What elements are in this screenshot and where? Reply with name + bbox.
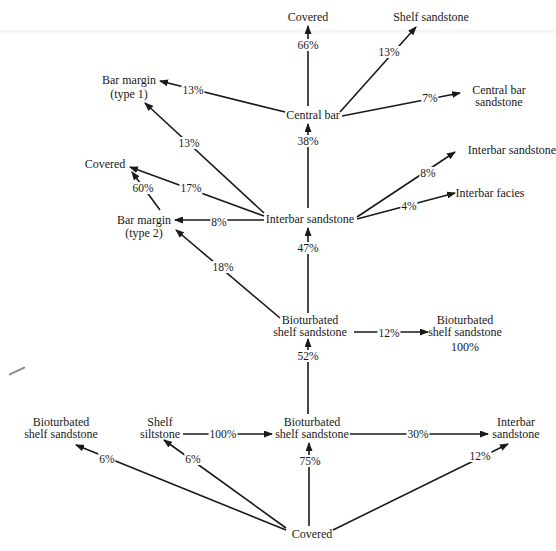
node-bar-margin-2-line2: (type 2) xyxy=(125,227,163,240)
edge-central-bar-central-bar-sandstone xyxy=(342,93,460,116)
label-central-bar-covered: 66% xyxy=(296,39,319,51)
label-interbar-interbar-sandstone: 8% xyxy=(419,167,436,179)
label-bioturbated-bottom-interbar-bottom: 30% xyxy=(406,428,429,440)
edge-bioturbated-mid-bar-margin-2 xyxy=(176,230,280,318)
label-covered-bioturbated-left: 6% xyxy=(98,453,115,465)
label-interbar-interbar-facies: 4% xyxy=(400,200,417,212)
node-interbar-sandstone-right: Interbar sandstone xyxy=(468,144,556,157)
node-interbar-sandstone-center: Interbar sandstone xyxy=(266,213,354,226)
node-bioturbated-left-line2: shelf sandstone xyxy=(24,428,98,441)
node-shelf-sandstone: Shelf sandstone xyxy=(393,11,469,24)
node-central-bar-sandstone-line2: sandstone xyxy=(475,96,522,109)
label-covered-bioturbated-bottom: 75% xyxy=(298,455,321,467)
label-bar-margin-2-covered-left: 60% xyxy=(131,182,154,194)
label-central-bar-central-bar-sandstone: 7% xyxy=(421,92,438,104)
edge-covered-shelf-siltstone xyxy=(164,440,286,528)
label-interbar-central-bar: 38% xyxy=(296,135,319,147)
label-bioturbated-mid-bar-margin-2: 18% xyxy=(211,261,234,273)
label-shelf-siltstone-bioturbated-bottom: 100% xyxy=(209,428,238,440)
node-bar-margin-1-line2: (type 1) xyxy=(110,88,148,101)
node-covered-left: Covered xyxy=(85,158,126,171)
edge-interbar-bar-margin-1 xyxy=(145,103,264,213)
node-bioturbated-right-line2: shelf sandstone xyxy=(428,326,502,339)
label-covered-interbar-bottom: 12% xyxy=(468,450,491,462)
label-interbar-bar-margin-1: 13% xyxy=(177,137,200,149)
node-bioturbated-mid-line2: shelf sandstone xyxy=(273,326,347,339)
node-bioturbated-right-pct: 100% xyxy=(451,341,479,354)
label-central-bar-bar-margin-1: 13% xyxy=(181,84,204,96)
facies-transition-diagram: Covered Shelf sandstone Central bar Cent… xyxy=(0,0,556,551)
edge-central-bar-bar-margin-1 xyxy=(160,81,285,112)
label-covered-shelf-siltstone: 6% xyxy=(184,453,201,465)
node-interbar-bottom-line2: sandstone xyxy=(492,428,539,441)
label-bioturbated-mid-interbar: 47% xyxy=(296,242,319,254)
label-interbar-bar-margin-2: 8% xyxy=(210,216,227,228)
label-interbar-covered-left: 17% xyxy=(179,182,202,194)
node-bioturbated-bottom-line2: shelf sandstone xyxy=(275,428,349,441)
node-covered-bottom: Covered xyxy=(292,528,333,541)
node-shelf-siltstone-line2: siltstone xyxy=(140,428,180,441)
node-covered-top: Covered xyxy=(288,11,329,24)
label-bioturbated-bottom-mid: 52% xyxy=(296,350,319,362)
edge-central-bar-shelf-sandstone xyxy=(340,27,416,112)
label-bioturbated-mid-bioturbated-right: 12% xyxy=(377,327,400,339)
node-interbar-facies: Interbar facies xyxy=(456,187,525,200)
label-central-bar-shelf-sandstone: 13% xyxy=(377,46,400,58)
node-central-bar: Central bar xyxy=(286,109,340,122)
node-bar-margin-1-line1: Bar margin xyxy=(102,74,156,87)
